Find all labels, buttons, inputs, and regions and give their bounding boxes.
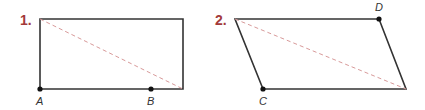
point-a-label: A: [36, 95, 43, 107]
figure-1-number: 1.: [20, 12, 32, 28]
parallelogram-diagonal: [235, 19, 406, 89]
point-b-label: B: [147, 95, 154, 107]
point-b-dot: [148, 86, 153, 91]
point-c-dot: [260, 86, 265, 91]
figure-1-rectangle: [37, 19, 183, 92]
figure-2-number: 2.: [215, 12, 227, 28]
point-d-dot: [376, 16, 381, 21]
figure-2-parallelogram: [235, 16, 406, 91]
point-d-label: D: [375, 1, 383, 13]
rectangle-diagonal: [40, 19, 183, 89]
diagram-canvas: [0, 0, 425, 110]
point-c-label: C: [259, 95, 267, 107]
point-a-dot: [37, 86, 42, 91]
